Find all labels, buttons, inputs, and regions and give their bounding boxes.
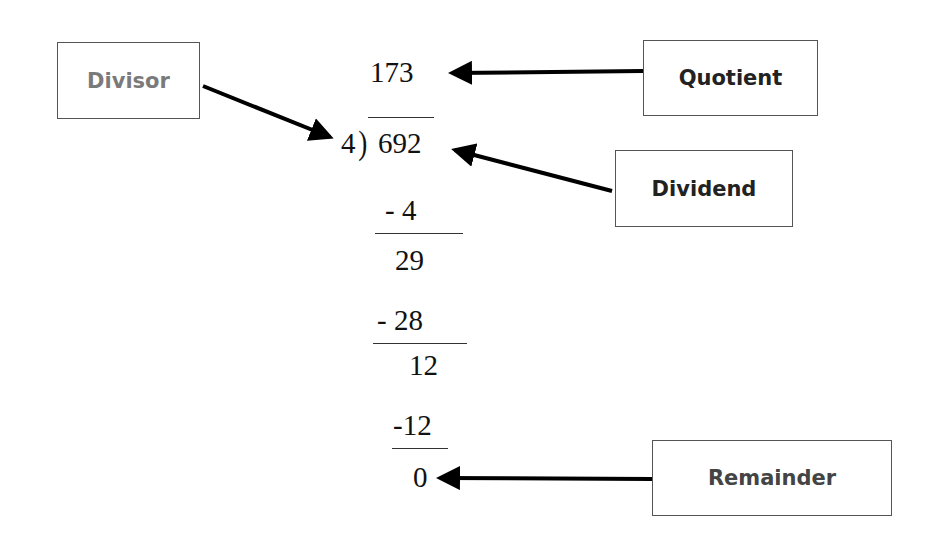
quotient-value: 173: [370, 58, 414, 87]
step-1-line: [375, 233, 463, 234]
long-division-diagram: Divisor Quotient Dividend Remainder 173 …: [0, 0, 935, 545]
vinculum-line: [368, 117, 434, 118]
dividend-label-box: Dividend: [615, 150, 793, 227]
remainder-label: Remainder: [708, 466, 836, 490]
quotient-label: Quotient: [679, 66, 783, 90]
remainder-arrow: [440, 478, 652, 479]
step-2-result: 12: [409, 351, 438, 380]
remainder-label-box: Remainder: [652, 440, 892, 516]
quotient-label-box: Quotient: [643, 40, 818, 116]
step-1-subtract: - 4: [385, 196, 416, 225]
step-3-subtract: -12: [393, 411, 432, 440]
remainder-value: 0: [413, 463, 428, 492]
divisor-label-box: Divisor: [57, 42, 200, 119]
step-2-subtract: - 28: [377, 306, 423, 335]
quotient-arrow: [452, 71, 643, 73]
dividend-arrow: [455, 150, 612, 191]
divisor-label: Divisor: [87, 69, 170, 93]
dividend-value: 692: [378, 129, 422, 158]
step-1-result: 29: [395, 246, 424, 275]
division-bracket: ): [358, 126, 367, 160]
divisor-arrow: [203, 86, 330, 137]
step-2-line: [373, 343, 467, 344]
step-3-line: [392, 448, 448, 449]
dividend-label: Dividend: [652, 177, 757, 201]
divisor-value: 4: [341, 129, 356, 158]
